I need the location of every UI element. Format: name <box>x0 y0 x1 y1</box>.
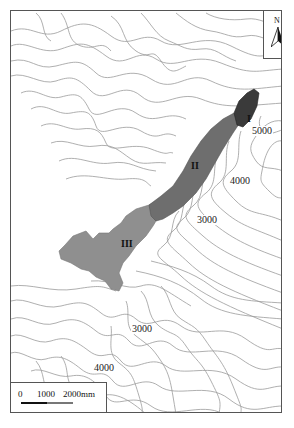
contour-map <box>11 11 282 413</box>
north-arrow-icon <box>271 27 282 47</box>
contour-label-3000: 3000 <box>196 215 218 225</box>
scale-bar: 0 1000 2000mm <box>11 382 107 413</box>
zone-ii-label: II <box>191 160 199 171</box>
scale-tick-2000: 2000mm <box>63 389 95 399</box>
contour-label-3000-south: 3000 <box>131 324 153 334</box>
contour-label-5000: 5000 <box>251 126 273 136</box>
contour-label-4000: 4000 <box>229 176 251 186</box>
north-arrow-box: N <box>263 11 282 59</box>
contour-label-4000-south: 4000 <box>93 363 115 373</box>
zone-iii-area <box>59 201 161 291</box>
scale-tick-1000: 1000 <box>37 389 55 399</box>
map-frame: 5000 4000 3000 3000 4000 I II III N 0 10… <box>10 10 282 413</box>
scale-segment-white <box>47 402 73 404</box>
scale-segment-black <box>21 402 47 404</box>
north-label: N <box>274 16 280 25</box>
scale-tick-0: 0 <box>18 389 23 399</box>
zone-i-label: I <box>247 113 251 124</box>
zone-iii-label: III <box>121 238 133 249</box>
